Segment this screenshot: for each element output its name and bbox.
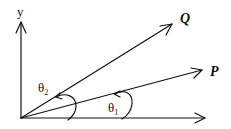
theta1-label: θ1 [108, 100, 118, 117]
vector-p-label: P [210, 64, 219, 79]
theta2-subscript: 2 [44, 88, 48, 97]
y-axis-label: y [17, 4, 24, 19]
y-axis [16, 22, 26, 118]
theta2-label: θ2 [38, 80, 48, 97]
vector-angle-diagram: y Q P θ2 θ1 [0, 0, 231, 129]
vector-q-label: Q [180, 11, 190, 26]
theta1-arc-arrowhead-icon [114, 91, 120, 97]
theta1-subscript: 1 [114, 108, 118, 117]
vector-q [21, 24, 172, 118]
